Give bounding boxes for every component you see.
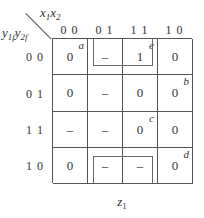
cell-value: – [88,86,122,99]
cell-value: 0 [158,50,192,63]
row-header-01: 0 1 [20,88,50,100]
cell-value: 0 [158,123,192,136]
cell-value: – [53,123,87,136]
cell-r2-c3: 0 [158,112,193,148]
row-header-11: 1 1 [20,124,50,136]
cell-r2-c2: 0 c [123,112,158,148]
cell-value: 0 [158,86,192,99]
cell-value: 0 [53,159,87,172]
cell-value: – [88,123,122,136]
row-header-00: 0 0 [20,51,50,63]
cell-r1-c1: – [88,75,123,111]
cell-r1-c2: 0 [123,75,158,111]
row-header-10: 1 0 [20,160,50,172]
cell-tag: c [149,113,154,124]
cell-value: 0 [123,123,157,136]
cell-r2-c0: – [53,112,88,148]
cell-r3-c0: 0 [53,148,88,184]
grouping-loop-bottom [93,156,153,183]
column-header-00: 0 0 [52,24,87,36]
cell-r3-c3: 0 d [158,148,193,184]
cell-tag: b [184,76,190,87]
column-header-10: 1 0 [157,24,192,36]
cell-value: 0 [53,50,87,63]
cell-r0-c3: 0 [158,39,193,75]
cell-value: 0 [53,86,87,99]
row-variables-label: y1fy2f [2,26,28,42]
column-header-11: 1 1 [122,24,157,36]
cell-r1-c0: 0 [53,75,88,111]
column-variables-label: x1x2 [40,6,61,22]
cell-r0-c0: 0 a [53,39,88,75]
grouping-loop-top [93,39,153,66]
column-header-01: 0 1 [87,24,122,36]
cell-value: 0 [158,159,192,172]
function-label: z1 [52,194,192,211]
cell-value: 0 [123,86,157,99]
cell-tag: a [79,40,85,51]
cell-tag: d [184,149,190,160]
cell-r2-c1: – [88,112,123,148]
kmap-grid: 0 a – 1 e 0 0 – 0 0 b [52,38,192,183]
cell-r1-c3: 0 b [158,75,193,111]
